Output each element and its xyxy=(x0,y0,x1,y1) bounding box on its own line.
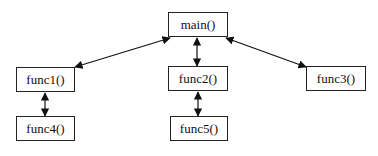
call-graph-diagram: main() func1() func2() func3() func4() f… xyxy=(0,0,378,156)
node-func2: func2() xyxy=(168,66,228,91)
node-func5-label: func5() xyxy=(180,121,218,137)
node-func3: func3() xyxy=(306,66,366,91)
node-func2-label: func2() xyxy=(179,71,217,87)
edge-main-func1 xyxy=(75,38,170,67)
node-func1: func1() xyxy=(16,67,75,92)
node-func3-label: func3() xyxy=(317,71,355,87)
node-main-label: main() xyxy=(181,17,216,33)
node-main: main() xyxy=(168,12,228,37)
node-func1-label: func1() xyxy=(26,72,64,88)
edge-main-func3 xyxy=(226,38,306,67)
node-func4-label: func4() xyxy=(26,121,64,137)
node-func4: func4() xyxy=(16,116,75,141)
node-func5: func5() xyxy=(170,116,228,141)
